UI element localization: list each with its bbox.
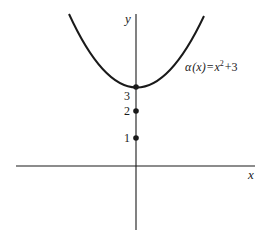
point-y2 — [133, 108, 139, 114]
tick-label-2: 2 — [124, 104, 130, 118]
func-args: (x) — [192, 60, 205, 74]
tick-label-3: 3 — [124, 89, 130, 103]
func-rest: +3 — [225, 60, 238, 74]
point-y3 — [133, 84, 139, 90]
point-y1 — [133, 135, 139, 141]
x-axis-label: x — [247, 167, 254, 182]
func-alpha: α — [185, 60, 192, 74]
func-eq: = — [207, 60, 214, 74]
function-graph: x y 3 2 1 α(x)=x2+3 — [0, 0, 267, 245]
tick-label-1: 1 — [124, 131, 130, 145]
y-axis-label: y — [123, 11, 131, 26]
function-annotation: α(x)=x2+3 — [185, 59, 238, 74]
func-exp: 2 — [220, 59, 224, 68]
